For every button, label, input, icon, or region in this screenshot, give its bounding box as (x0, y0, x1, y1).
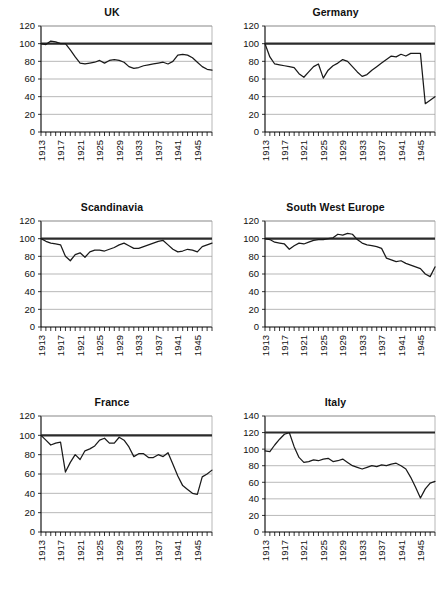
x-tick-label: 1917 (55, 540, 66, 561)
x-tick-label: 1917 (279, 140, 290, 161)
x-tick-label: 1917 (279, 540, 290, 561)
x-tick-label: 1917 (279, 335, 290, 356)
x-tick-label: 1945 (415, 540, 426, 561)
y-tick-label: 80 (248, 251, 259, 262)
y-tick-label: 80 (24, 449, 35, 460)
x-tick-label: 1929 (114, 140, 125, 161)
series-line-uk (41, 41, 212, 70)
y-tick-label: 120 (19, 215, 35, 226)
chart-svg-italy: 0204060801001201401913191719211925192919… (224, 390, 447, 595)
x-tick-label: 1913 (36, 540, 47, 561)
x-tick-label: 1933 (357, 140, 368, 161)
x-tick-label: 1945 (192, 540, 203, 561)
x-tick-label: 1929 (114, 540, 125, 561)
chart-title-scandinavia: Scandinavia (0, 201, 224, 213)
y-tick-label: 20 (24, 109, 35, 120)
x-tick-label: 1913 (260, 540, 271, 561)
chart-panel-uk: UK02040608010012019131917192119251929193… (0, 0, 224, 195)
chart-title-germany: Germany (224, 6, 447, 18)
x-tick-label: 1945 (415, 335, 426, 356)
y-tick-label: 100 (19, 233, 35, 244)
y-tick-label: 80 (24, 251, 35, 262)
y-tick-label: 60 (248, 73, 259, 84)
x-tick-label: 1945 (192, 335, 203, 356)
y-tick-label: 0 (254, 526, 259, 537)
y-tick-label: 100 (243, 233, 259, 244)
y-tick-label: 60 (248, 268, 259, 279)
y-tick-label: 120 (243, 20, 259, 31)
x-tick-label: 1917 (55, 335, 66, 356)
series-line-swe (265, 233, 435, 276)
x-tick-label: 1921 (298, 540, 309, 561)
y-tick-label: 120 (19, 20, 35, 31)
y-gridlines-france: 020406080100120 (19, 410, 212, 537)
y-gridlines-scandinavia: 020406080100120 (19, 215, 212, 332)
y-tick-label: 0 (30, 126, 35, 137)
x-tick-label: 1937 (153, 540, 164, 561)
y-tick-label: 0 (254, 321, 259, 332)
x-tick-label: 1933 (357, 540, 368, 561)
x-tick-label: 1921 (75, 335, 86, 356)
y-gridlines-germany: 020406080100120 (243, 20, 435, 137)
x-tick-label: 1925 (94, 140, 105, 161)
y-tick-label: 40 (24, 91, 35, 102)
y-tick-label: 20 (24, 304, 35, 315)
y-tick-label: 100 (19, 38, 35, 49)
x-tick-labels-swe: 191319171921192519291933193719411945 (260, 335, 426, 356)
chart-svg-uk: 0204060801001201913191719211925192919331… (0, 0, 224, 195)
y-gridlines-uk: 020406080100120 (19, 20, 212, 137)
x-tick-label: 1933 (133, 540, 144, 561)
x-tick-label: 1929 (337, 335, 348, 356)
y-tick-label: 40 (248, 91, 259, 102)
x-tick-labels-scandinavia: 191319171921192519291933193719411945 (36, 335, 203, 356)
y-tick-label: 40 (24, 488, 35, 499)
x-tick-label: 1937 (376, 140, 387, 161)
x-tick-label: 1941 (396, 335, 407, 356)
y-tick-label: 80 (248, 56, 259, 67)
y-tick-label: 80 (24, 56, 35, 67)
y-tick-label: 100 (19, 430, 35, 441)
y-tick-label: 0 (30, 321, 35, 332)
x-tick-label: 1925 (94, 540, 105, 561)
x-tick-label: 1937 (153, 335, 164, 356)
x-ticks-germany (265, 132, 435, 136)
chart-title-italy: Italy (224, 396, 447, 408)
y-tick-label: 20 (248, 109, 259, 120)
x-tick-label: 1913 (36, 140, 47, 161)
x-tick-labels-germany: 191319171921192519291933193719411945 (260, 140, 426, 161)
y-tick-label: 80 (248, 460, 259, 471)
x-tick-labels-france: 191319171921192519291933193719411945 (36, 540, 203, 561)
x-tick-label: 1929 (114, 335, 125, 356)
y-tick-label: 40 (24, 286, 35, 297)
chart-svg-france: 0204060801001201913191719211925192919331… (0, 390, 224, 595)
chart-panel-france: France0204060801001201913191719211925192… (0, 390, 224, 595)
y-tick-label: 120 (243, 215, 259, 226)
x-tick-label: 1933 (133, 335, 144, 356)
chart-panel-germany: Germany020406080100120191319171921192519… (224, 0, 447, 195)
x-tick-labels-uk: 191319171921192519291933193719411945 (36, 140, 203, 161)
y-tick-label: 100 (243, 38, 259, 49)
x-tick-label: 1921 (75, 540, 86, 561)
chart-title-uk: UK (0, 6, 224, 18)
x-tick-label: 1929 (337, 540, 348, 561)
series-line-france (41, 435, 212, 494)
series-line-italy (265, 433, 435, 498)
x-tick-label: 1933 (357, 335, 368, 356)
y-tick-label: 40 (248, 286, 259, 297)
x-ticks-swe (265, 327, 435, 331)
y-tick-label: 20 (248, 304, 259, 315)
y-tick-label: 40 (248, 493, 259, 504)
chart-panel-swe: South West Europe02040608010012019131917… (224, 195, 447, 390)
series-line-germany (265, 44, 435, 104)
x-tick-label: 1941 (396, 140, 407, 161)
x-ticks-uk (41, 132, 212, 136)
y-tick-label: 60 (24, 268, 35, 279)
x-tick-label: 1941 (396, 540, 407, 561)
x-tick-label: 1929 (337, 140, 348, 161)
x-tick-label: 1937 (376, 335, 387, 356)
chart-svg-swe: 0204060801001201913191719211925192919331… (224, 195, 447, 390)
x-tick-label: 1937 (153, 140, 164, 161)
y-tick-label: 0 (30, 526, 35, 537)
y-tick-label: 60 (24, 73, 35, 84)
x-tick-label: 1941 (172, 140, 183, 161)
